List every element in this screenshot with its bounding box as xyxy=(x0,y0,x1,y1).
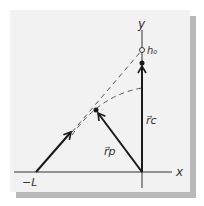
projectile-point xyxy=(94,108,99,113)
projectile-diagram: y x −L h₀ r⃗p r⃗c xyxy=(0,0,204,206)
y-axis-label: y xyxy=(137,17,146,31)
x-axis-label: x xyxy=(175,165,184,179)
launch-arrow xyxy=(36,132,71,172)
rp-vector xyxy=(98,113,142,172)
neg-L-label: −L xyxy=(22,176,37,189)
sight-line-dashed xyxy=(72,50,142,132)
rc-label: r⃗c xyxy=(146,114,157,127)
h0-point xyxy=(140,48,145,53)
h0-label: h₀ xyxy=(147,45,157,56)
trajectory-dashed xyxy=(72,88,142,135)
rp-label: r⃗p xyxy=(104,145,116,158)
target-point xyxy=(140,61,145,66)
